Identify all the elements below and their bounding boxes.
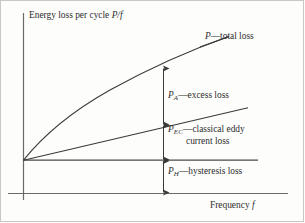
hysteresis-loss-text: hysteresis loss — [188, 166, 242, 176]
y-axis-label-text: Energy loss per cycle — [29, 10, 112, 20]
y-axis-label: Energy loss per cycle P/f — [29, 10, 123, 21]
x-axis-symbol: f — [252, 200, 255, 210]
excess-loss-dash: — — [178, 90, 187, 100]
eddy-loss-text: classical eddy — [192, 124, 244, 134]
eddy-loss-subscript: EC — [174, 128, 183, 136]
y-axis-symbol: P/f — [112, 10, 123, 20]
hysteresis-loss-dash: — — [179, 166, 188, 176]
plot-canvas — [0, 0, 305, 223]
x-axis-label-text: Frequency — [210, 200, 252, 210]
energy-loss-figure: Energy loss per cycle P/f Frequency f P—… — [0, 0, 305, 223]
eddy-loss-dash: — — [183, 124, 192, 134]
x-axis-label: Frequency f — [210, 200, 255, 211]
excess-loss-text: excess loss — [188, 90, 229, 100]
total-loss-dash: — — [211, 31, 220, 41]
eddy-loss-label: PEC—classical eddy — [168, 124, 245, 136]
total-loss-text: total loss — [220, 31, 254, 41]
eddy-loss-label-line2: current loss — [186, 136, 229, 147]
hysteresis-loss-label: PH—hysteresis loss — [168, 166, 242, 178]
excess-loss-label: PA—excess loss — [168, 90, 229, 102]
total-loss-label: P—total loss — [205, 31, 254, 42]
